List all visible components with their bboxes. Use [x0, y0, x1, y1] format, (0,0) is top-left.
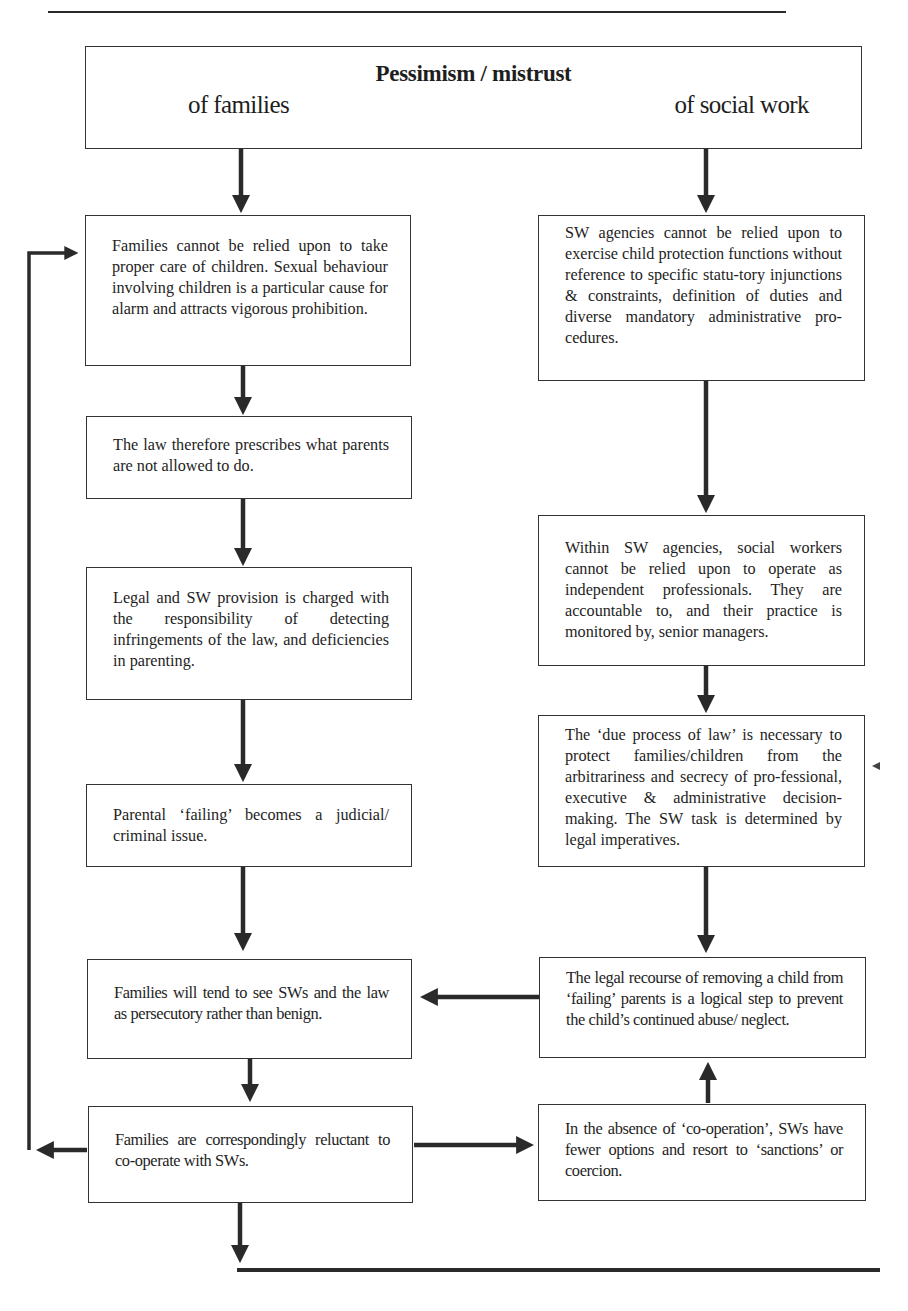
box-R4: The legal recourse of removing a child f…: [539, 957, 866, 1058]
right-subtitle: of social work: [674, 91, 809, 119]
margin-marker-icon: [872, 762, 880, 770]
box-L6-text: Families are correspondingly reluctant t…: [115, 1129, 390, 1171]
box-L1: Families cannot be relied upon to take p…: [85, 215, 411, 366]
diagram-title: Pessimism / mistrust: [86, 61, 861, 87]
box-L3: Legal and SW provision is charged with t…: [86, 567, 412, 700]
box-R2-text: Within SW agencies, social workers canno…: [565, 538, 842, 643]
box-L3-text: Legal and SW provision is charged with t…: [113, 588, 389, 672]
box-L5-text: Families will tend to see SWs and the la…: [114, 982, 389, 1024]
box-R3: The ‘due process of law’ is necessary to…: [538, 715, 865, 867]
feedback-loop-to-L1: [29, 253, 72, 1150]
box-R5-text: In the absence of ‘co-operation’, SWs ha…: [565, 1118, 843, 1181]
box-R1: SW agencies cannot be relied upon to exe…: [538, 215, 865, 381]
box-L2-text: The law therefore prescribes what parent…: [113, 435, 389, 477]
left-subtitle: of families: [188, 91, 289, 119]
box-L5: Families will tend to see SWs and the la…: [87, 959, 412, 1059]
box-R2: Within SW agencies, social workers canno…: [538, 515, 865, 666]
header-box: Pessimism / mistrust of families of soci…: [85, 46, 862, 149]
box-R1-text: SW agencies cannot be relied upon to exe…: [565, 223, 842, 349]
box-L4-text: Parental ‘failing’ becomes a judicial/ c…: [113, 805, 389, 847]
box-L4: Parental ‘failing’ becomes a judicial/ c…: [86, 784, 412, 867]
box-L1-text: Families cannot be relied upon to take p…: [112, 236, 388, 320]
box-L6: Families are correspondingly reluctant t…: [88, 1106, 413, 1203]
box-R5: In the absence of ‘co-operation’, SWs ha…: [538, 1104, 866, 1201]
box-L2: The law therefore prescribes what parent…: [86, 416, 412, 499]
box-R4-text: The legal recourse of removing a child f…: [566, 967, 843, 1030]
box-R3-text: The ‘due process of law’ is necessary to…: [565, 725, 842, 851]
